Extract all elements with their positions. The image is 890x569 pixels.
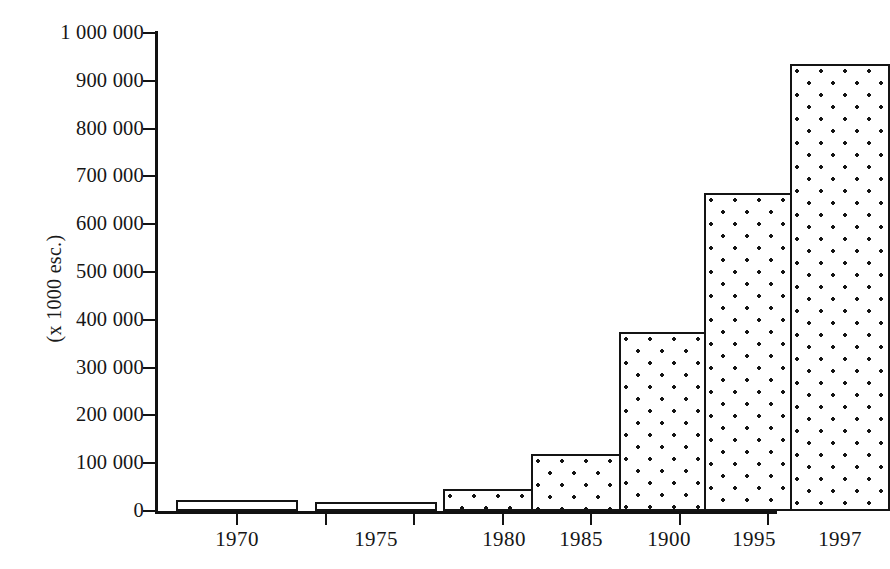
y-axis-tick-label: 900 000 — [32, 70, 144, 91]
x-axis-tick-mark — [502, 514, 504, 525]
y-axis-tick-mark — [143, 175, 156, 177]
bar — [176, 500, 298, 511]
y-axis-tick-mark — [143, 510, 156, 512]
y-axis-tick-label: 200 000 — [32, 404, 144, 425]
y-axis-tick-labels: 0100 000200 000300 000400 000500 000600 … — [28, 0, 144, 569]
y-axis-tick-mark — [143, 271, 156, 273]
y-axis-tick-label: 700 000 — [32, 165, 144, 186]
y-axis-tick-mark — [143, 319, 156, 321]
y-axis-tick-label: 1 000 000 — [32, 22, 144, 43]
y-axis-tick-label: 500 000 — [32, 261, 144, 282]
y-axis-tick-label: 400 000 — [32, 309, 144, 330]
bar — [531, 454, 631, 511]
x-axis-tick-mark — [413, 514, 415, 525]
x-axis-tick-mark — [325, 514, 327, 525]
y-axis-tick-mark — [143, 80, 156, 82]
y-axis-tick-label: 300 000 — [32, 357, 144, 378]
y-axis-tick-mark — [143, 128, 156, 130]
y-axis-tick-label: 100 000 — [32, 452, 144, 473]
x-axis-tick-mark — [767, 514, 769, 525]
y-axis-tick-mark — [143, 462, 156, 464]
y-axis-tick-label: 800 000 — [32, 118, 144, 139]
y-axis-tick-label: 0 — [32, 500, 144, 521]
x-axis-tick-label: 1995 — [704, 527, 804, 551]
x-axis-tick-label: 1970 — [187, 527, 287, 551]
bar — [315, 502, 437, 511]
x-axis-tick-mark — [679, 514, 681, 525]
x-axis-line — [155, 511, 777, 514]
y-axis-tick-mark — [143, 223, 156, 225]
y-axis-tick-mark — [143, 414, 156, 416]
x-axis-tick-mark — [236, 514, 238, 525]
x-axis-tick-label: 1985 — [531, 527, 631, 551]
y-axis-tick-mark — [143, 367, 156, 369]
bar — [790, 64, 890, 511]
x-axis-tick-label: 1975 — [326, 527, 426, 551]
y-axis-tick-mark — [143, 32, 156, 34]
x-axis-tick-label: 1997 — [790, 527, 890, 551]
bar — [704, 193, 804, 511]
y-axis-tick-label: 600 000 — [32, 213, 144, 234]
x-axis-tick-mark — [590, 514, 592, 525]
